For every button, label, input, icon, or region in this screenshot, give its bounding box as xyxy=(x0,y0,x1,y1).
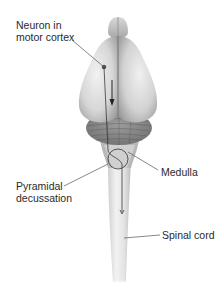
spinal-cord-label: Spinal cord xyxy=(162,229,215,241)
pyramidal-leader-line xyxy=(64,164,108,186)
spinal-cord-shape xyxy=(104,160,134,285)
pyramidal-label-line1: Pyramidal xyxy=(16,180,63,192)
pyramidal-label-line2: decussation xyxy=(16,192,72,204)
medulla-label: Medulla xyxy=(161,166,198,178)
brain-spinal-cord-diagram xyxy=(0,0,219,290)
neuron-label-line1: Neuron in xyxy=(16,19,62,31)
olfactory-bulb-shape xyxy=(108,17,128,38)
cerebral-hemispheres-shape xyxy=(79,36,157,122)
spinal-cord-leader-line xyxy=(124,235,160,238)
neuron-label-line2: motor cortex xyxy=(16,31,74,43)
